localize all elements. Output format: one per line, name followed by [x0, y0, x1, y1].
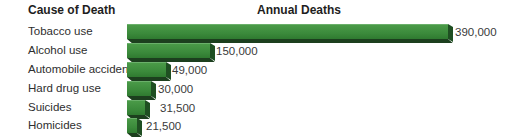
- bar-row-hard-drug: Hard drug use 30,000: [0, 81, 514, 99]
- bar: [127, 24, 448, 39]
- bar-row-suicides: Suicides 31,500: [0, 100, 514, 118]
- category-label: Alcohol use: [28, 44, 87, 56]
- value-label: 31,500: [160, 102, 195, 114]
- value-label: 49,000: [172, 64, 207, 76]
- bar-row-tobacco: Tobacco use 390,000: [0, 24, 514, 42]
- value-label: 30,000: [158, 83, 193, 95]
- bar-row-homicides: Homicides 21,500: [0, 118, 514, 136]
- bar: [127, 118, 137, 133]
- category-label: Homicides: [28, 119, 82, 131]
- category-label: Suicides: [28, 101, 71, 113]
- value-label: 150,000: [216, 45, 258, 57]
- bar-row-alcohol: Alcohol use 150,000: [0, 43, 514, 61]
- bar-row-automobile: Automobile accidents 49,000: [0, 62, 514, 80]
- bar: [127, 81, 151, 96]
- category-header: Cause of Death: [28, 3, 115, 17]
- value-label: 390,000: [455, 26, 497, 38]
- chart-title: Annual Deaths: [257, 3, 341, 17]
- bar: [127, 62, 166, 77]
- bar: [127, 43, 210, 58]
- bar: [127, 100, 145, 115]
- category-label: Hard drug use: [28, 82, 101, 94]
- value-label: 21,500: [146, 120, 181, 132]
- category-label: Automobile accidents: [28, 63, 137, 75]
- category-label: Tobacco use: [28, 25, 93, 37]
